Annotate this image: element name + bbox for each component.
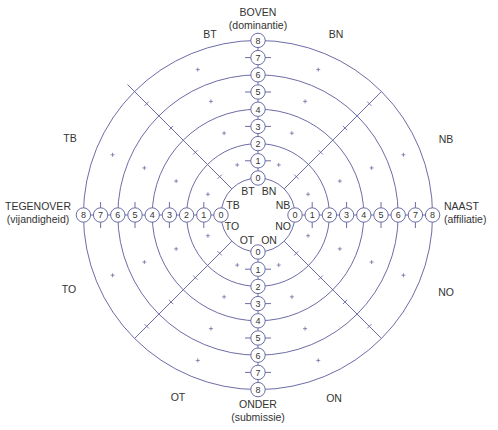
scale-node-value: 4 xyxy=(255,105,260,115)
scale-node-right-3: 3 xyxy=(339,208,353,222)
plus-marker xyxy=(306,192,310,196)
axis-right-label: NAAST xyxy=(444,200,479,212)
scale-node-top-4: 4 xyxy=(251,102,265,116)
axis-label-left: TEGENOVER (vijandigheid) xyxy=(2,200,74,226)
octant-label-TB: TB xyxy=(63,132,76,144)
scale-node-top-0: 0 xyxy=(251,171,265,185)
plus-marker xyxy=(209,327,213,331)
plus-marker xyxy=(290,131,294,135)
axis-right-sublabel: (affiliatie) xyxy=(444,213,498,226)
scale-node-value: 1 xyxy=(255,156,260,166)
scale-node-right-6: 6 xyxy=(391,208,405,222)
axis-bottom-sublabel: (submissie) xyxy=(218,411,298,424)
scale-node-bottom-5: 5 xyxy=(251,331,265,345)
plus-marker xyxy=(306,234,310,238)
scale-node-value: 0 xyxy=(255,247,260,257)
scale-node-value: 2 xyxy=(184,210,189,220)
scale-node-bottom-4: 4 xyxy=(251,314,265,328)
scale-node-left-1: 1 xyxy=(197,208,211,222)
scale-node-bottom-2: 2 xyxy=(251,279,265,293)
scale-node-left-2: 2 xyxy=(179,208,193,222)
scale-node-value: 0 xyxy=(255,173,260,183)
scale-node-left-8: 8 xyxy=(76,208,90,222)
scale-node-right-5: 5 xyxy=(374,208,388,222)
axis-top-label: BOVEN xyxy=(240,6,277,18)
scale-node-value: 2 xyxy=(327,210,332,220)
plus-marker xyxy=(338,179,342,183)
scale-node-left-4: 4 xyxy=(145,208,159,222)
plus-marker xyxy=(222,131,226,135)
scale-node-value: 5 xyxy=(255,333,260,343)
octant-label-NO: NO xyxy=(438,286,454,298)
scale-node-value: 4 xyxy=(150,210,155,220)
plus-marker xyxy=(401,273,405,277)
plus-marker xyxy=(111,153,115,157)
plus-marker xyxy=(370,260,374,264)
plus-marker xyxy=(290,295,294,299)
plus-marker xyxy=(206,234,210,238)
scale-node-value: 7 xyxy=(255,368,260,378)
scale-node-right-7: 7 xyxy=(408,208,422,222)
plus-marker xyxy=(196,68,200,72)
scale-node-value: 6 xyxy=(255,70,260,80)
scale-node-right-4: 4 xyxy=(357,208,371,222)
inner-octant-label-NO: NO xyxy=(275,220,291,232)
scale-node-bottom-7: 7 xyxy=(251,365,265,379)
scale-node-top-3: 3 xyxy=(251,119,265,133)
plus-marker xyxy=(316,358,320,362)
scale-node-right-8: 8 xyxy=(425,208,439,222)
octant-label-ON: ON xyxy=(326,392,342,404)
scale-node-left-5: 5 xyxy=(128,208,142,222)
plus-marker xyxy=(209,99,213,103)
scale-node-right-2: 2 xyxy=(322,208,336,222)
ring-circle-0 xyxy=(221,178,295,252)
plus-marker xyxy=(338,247,342,251)
octant-label-NB: NB xyxy=(439,133,454,145)
diagonal-line xyxy=(135,241,232,338)
scale-node-bottom-0: 0 xyxy=(251,245,265,259)
plus-marker xyxy=(316,68,320,72)
scale-node-value: 4 xyxy=(361,210,366,220)
scale-node-value: 1 xyxy=(310,210,315,220)
scale-node-value: 8 xyxy=(255,385,260,395)
scale-node-value: 0 xyxy=(218,210,223,220)
scale-node-value: 3 xyxy=(344,210,349,220)
octant-label-BN: BN xyxy=(329,28,344,40)
scale-node-value: 3 xyxy=(255,122,260,132)
plus-marker xyxy=(370,166,374,170)
scale-node-bottom-6: 6 xyxy=(251,348,265,362)
plus-marker xyxy=(277,163,281,167)
axis-top-sublabel: (dominantie) xyxy=(218,19,298,32)
plus-marker xyxy=(235,163,239,167)
scale-node-value: 6 xyxy=(115,210,120,220)
inner-octant-label-BN: BN xyxy=(262,185,277,197)
scale-node-value: 6 xyxy=(396,210,401,220)
plus-marker xyxy=(303,99,307,103)
scale-node-value: 4 xyxy=(255,316,260,326)
plus-marker xyxy=(401,153,405,157)
plus-marker xyxy=(174,247,178,251)
axis-left-sublabel: (vijandigheid) xyxy=(2,213,74,226)
scale-node-top-5: 5 xyxy=(251,85,265,99)
scale-node-bottom-1: 1 xyxy=(251,262,265,276)
scale-node-value: 5 xyxy=(255,87,260,97)
octant-label-TO: TO xyxy=(62,283,76,295)
scale-node-left-3: 3 xyxy=(162,208,176,222)
axis-label-bottom: ONDER (submissie) xyxy=(218,398,298,424)
octant-label-OT: OT xyxy=(171,391,186,403)
plus-marker xyxy=(277,263,281,267)
plus-marker xyxy=(111,273,115,277)
inner-octant-label-TO: TO xyxy=(225,220,239,232)
plus-marker xyxy=(142,166,146,170)
plus-marker xyxy=(222,295,226,299)
plus-marker xyxy=(303,327,307,331)
scale-node-value: 5 xyxy=(132,210,137,220)
scale-node-right-1: 1 xyxy=(305,208,319,222)
diagonal-line xyxy=(127,84,231,188)
inner-octant-label-NB: NB xyxy=(276,199,291,211)
leary-rose-diagram: 012345678012345678012345678012345678 xyxy=(0,0,498,430)
inner-octant-label-ON: ON xyxy=(261,234,277,246)
plus-marker xyxy=(196,358,200,362)
diagonal-line xyxy=(284,92,381,189)
inner-octant-label-TB: TB xyxy=(226,199,239,211)
